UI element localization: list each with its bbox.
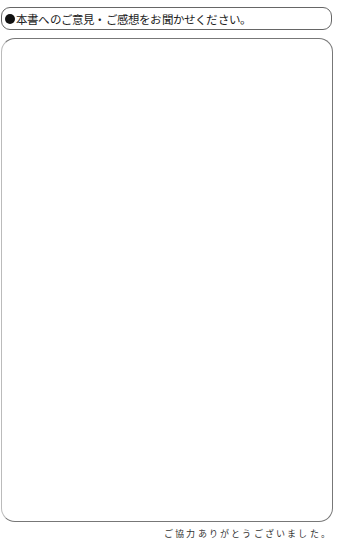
feedback-heading-box: 本書へのご意見・ご感想をお聞かせください。 [1,7,332,30]
comment-writing-area[interactable] [1,38,333,522]
closing-thanks: ご協力ありがとうございました。 [164,527,332,539]
feedback-heading: 本書へのご意見・ご感想をお聞かせください。 [16,11,251,27]
bullet-icon [5,14,15,24]
